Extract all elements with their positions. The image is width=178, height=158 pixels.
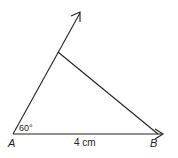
side-length-label: 4 cm — [74, 138, 96, 148]
angle-label: 60° — [19, 124, 33, 133]
point-a-label: A — [8, 138, 15, 149]
side-to-b — [58, 52, 158, 134]
triangle-diagram — [0, 0, 178, 158]
ray-from-a — [13, 13, 80, 134]
point-b-label: B — [150, 138, 157, 149]
